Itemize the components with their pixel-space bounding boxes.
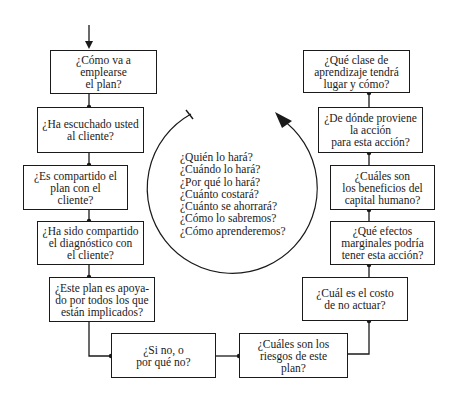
- box-cost-of-inaction: ¿Cuál es el costo de no actuar?: [302, 277, 408, 321]
- box-diagnosis-shared: ¿Ha sido compartido el diagnóstico con e…: [37, 221, 144, 265]
- box-action-source: ¿De dónde proviene la acción para esta a…: [318, 107, 423, 153]
- box-learning-type: ¿Qué clase de aprendizaje tendrá lugar y…: [303, 50, 410, 93]
- box-side-effects: ¿Qué efectos marginales podría tener est…: [330, 221, 435, 265]
- box-plan-risks: ¿Cuáles son los riesgos de este plan?: [239, 333, 348, 378]
- box-how-plan-used: ¿Cómo va a emplearse el plan?: [50, 50, 157, 94]
- diagram-canvas: ¿Cómo va a emplearse el plan? ¿Ha escuch…: [0, 0, 461, 402]
- box-human-capital-benefits: ¿Cuáles son los beneficios del capital h…: [330, 165, 435, 210]
- box-listened-client: ¿Ha escuchado usted al cliente?: [37, 107, 144, 153]
- box-if-not-why: ¿Si no, o por qué no?: [111, 333, 216, 378]
- box-plan-shared: ¿Es compartido el plan con el cliente?: [23, 165, 128, 210]
- center-questions: ¿Quién lo hará? ¿Cuándo lo hará? ¿Por qu…: [180, 151, 286, 237]
- entry-arrowhead: [85, 41, 93, 49]
- box-plan-supported: ¿Este plan es apoya- do por todos los qu…: [49, 277, 155, 322]
